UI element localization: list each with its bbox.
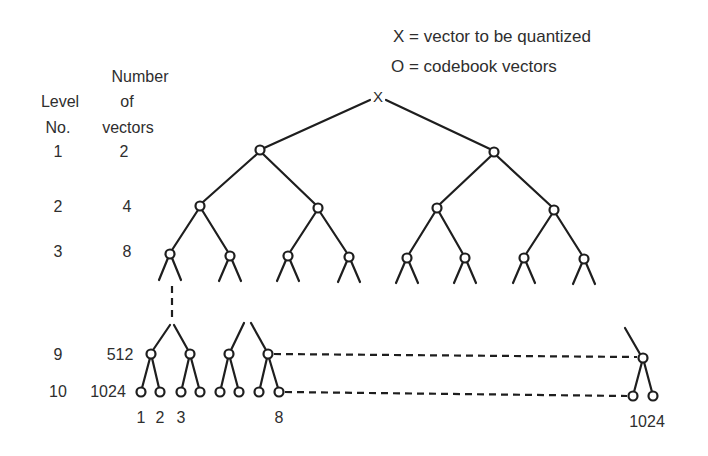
edge [386,100,490,149]
dashed-level9-connector [274,354,637,357]
tree-graphic [0,0,708,456]
edge [264,100,370,148]
dashed-level10-connector [285,392,627,396]
codebook-nodes [137,146,658,401]
